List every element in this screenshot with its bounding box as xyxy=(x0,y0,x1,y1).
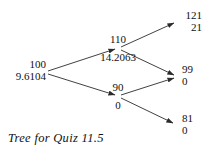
node-root: 100 9.6104 xyxy=(6,59,46,82)
node-mid-option-value: 0 xyxy=(182,76,212,88)
node-up-asset-price: 110 xyxy=(90,34,146,46)
node-mid: 99 0 xyxy=(182,64,212,87)
node-up-up: 121 21 xyxy=(168,10,202,33)
figure-caption: Tree for Quiz 11.5 xyxy=(8,131,104,146)
node-up-option-value: 14.2063 xyxy=(90,52,146,64)
node-down-down-option-value: 0 xyxy=(182,125,212,137)
node-root-asset-price: 100 xyxy=(6,59,46,71)
node-mid-asset-price: 99 xyxy=(182,64,212,76)
node-up: 110 xyxy=(90,34,146,46)
node-up-up-option-value: 21 xyxy=(168,22,202,34)
node-root-option-value: 9.6104 xyxy=(6,71,46,83)
node-up-option: 14.2063 xyxy=(90,52,146,64)
node-down-asset-price: 90 xyxy=(96,82,140,94)
figure-canvas: 100 9.6104 110 14.2063 90 0 121 21 99 0 … xyxy=(0,0,212,159)
node-down-down: 81 0 xyxy=(182,113,212,136)
node-up-up-asset-price: 121 xyxy=(168,10,202,22)
node-down-option-value: 0 xyxy=(96,100,140,112)
node-down-down-asset-price: 81 xyxy=(182,113,212,125)
node-down: 90 xyxy=(96,82,140,94)
node-down-option: 0 xyxy=(96,100,140,112)
